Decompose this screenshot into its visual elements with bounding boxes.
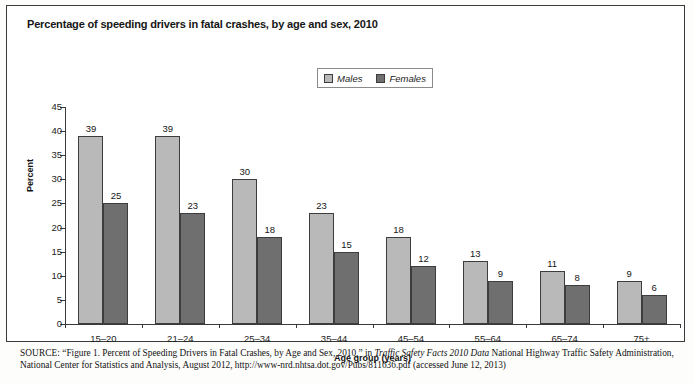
y-tick-label: 30 bbox=[51, 173, 62, 184]
source-note: SOURCE: “Figure 1. Percent of Speeding D… bbox=[20, 348, 680, 371]
source-label: SOURCE: bbox=[20, 348, 60, 358]
x-tick-mark bbox=[603, 324, 604, 328]
bar-value-label: 6 bbox=[636, 282, 673, 293]
figure-container: Percentage of speeding drivers in fatal … bbox=[0, 0, 693, 385]
x-tick-mark bbox=[373, 324, 374, 328]
x-tick-mark bbox=[296, 324, 297, 328]
females-swatch-icon bbox=[376, 74, 385, 83]
y-tick-label: 0 bbox=[57, 318, 62, 329]
bar-value-label: 11 bbox=[534, 258, 571, 269]
y-axis-label: Percent bbox=[25, 159, 35, 192]
bar-value-label: 13 bbox=[457, 248, 494, 259]
legend-label-females: Females bbox=[389, 73, 425, 84]
bar-females-75+ bbox=[642, 295, 667, 324]
bar-value-label: 12 bbox=[405, 253, 442, 264]
y-tick-label: 35 bbox=[51, 149, 62, 160]
chart-frame: Percentage of speeding drivers in fatal … bbox=[6, 5, 685, 342]
x-tick-mark bbox=[449, 324, 450, 328]
bar-females-45–54 bbox=[411, 266, 436, 324]
legend-label-males: Males bbox=[337, 73, 362, 84]
bar-value-label: 9 bbox=[611, 268, 648, 279]
bar-females-35–44 bbox=[334, 252, 359, 324]
x-tick-label-35–44: 35–44 bbox=[296, 333, 373, 344]
y-tick-label: 10 bbox=[51, 270, 62, 281]
x-tick-mark bbox=[680, 324, 681, 328]
source-text-part1: “Figure 1. Percent of Speeding Drivers i… bbox=[60, 348, 374, 358]
source-publication-title: Traffic Safety Facts 2010 Data bbox=[374, 348, 489, 358]
bar-value-label: 30 bbox=[226, 166, 263, 177]
page-title: Percentage of speeding drivers in fatal … bbox=[27, 18, 378, 30]
bar-females-21–24 bbox=[180, 213, 205, 324]
bar-females-15–20 bbox=[103, 203, 128, 324]
x-tick-mark bbox=[65, 324, 66, 328]
bar-females-65–74 bbox=[565, 285, 590, 324]
bar-males-35–44 bbox=[309, 213, 334, 324]
bar-males-15–20 bbox=[78, 136, 103, 324]
y-tick-label: 40 bbox=[51, 125, 62, 136]
x-tick-label-55–64: 55–64 bbox=[449, 333, 526, 344]
y-tick-label: 15 bbox=[51, 246, 62, 257]
y-tick-label: 5 bbox=[57, 294, 62, 305]
bar-value-label: 18 bbox=[380, 224, 417, 235]
x-tick-label-75+: 75+ bbox=[603, 333, 680, 344]
plot-area: 051015202530354045 392539233018231518121… bbox=[65, 107, 680, 324]
chart-legend: Males Females bbox=[317, 68, 433, 88]
x-tick-mark bbox=[142, 324, 143, 328]
bar-value-label: 23 bbox=[303, 200, 340, 211]
y-axis-line bbox=[65, 107, 66, 324]
x-tick-mark bbox=[219, 324, 220, 328]
x-tick-label-15–20: 15–20 bbox=[65, 333, 142, 344]
bar-females-55–64 bbox=[488, 281, 513, 324]
bar-males-25–34 bbox=[232, 179, 257, 324]
x-tick-label-45–54: 45–54 bbox=[373, 333, 450, 344]
bar-males-21–24 bbox=[155, 136, 180, 324]
legend-item-males: Males bbox=[324, 73, 362, 84]
legend-item-females: Females bbox=[376, 73, 425, 84]
y-tick-label: 25 bbox=[51, 197, 62, 208]
bar-value-label: 18 bbox=[251, 224, 288, 235]
x-tick-label-21–24: 21–24 bbox=[142, 333, 219, 344]
y-tick-label: 45 bbox=[51, 101, 62, 112]
bar-females-25–34 bbox=[257, 237, 282, 324]
bar-value-label: 15 bbox=[328, 239, 365, 250]
x-tick-label-65–74: 65–74 bbox=[526, 333, 603, 344]
bar-value-label: 23 bbox=[174, 200, 211, 211]
bar-males-45–54 bbox=[386, 237, 411, 324]
bar-value-label: 39 bbox=[72, 123, 109, 134]
bar-value-label: 39 bbox=[149, 123, 186, 134]
y-tick-label: 20 bbox=[51, 222, 62, 233]
x-tick-mark bbox=[526, 324, 527, 328]
bar-value-label: 9 bbox=[482, 268, 519, 279]
x-tick-label-25–34: 25–34 bbox=[219, 333, 296, 344]
bar-value-label: 25 bbox=[97, 190, 134, 201]
bar-value-label: 8 bbox=[559, 272, 596, 283]
males-swatch-icon bbox=[324, 74, 333, 83]
